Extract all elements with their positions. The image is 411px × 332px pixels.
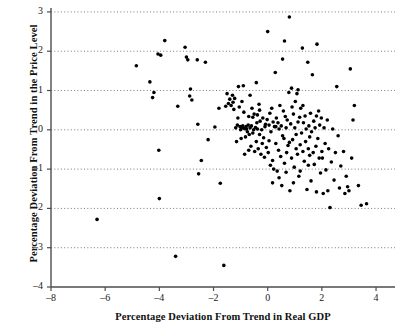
data-point: [292, 181, 296, 185]
data-point: [312, 119, 316, 123]
data-point: [309, 112, 313, 116]
data-point: [301, 104, 305, 108]
data-point: [251, 131, 255, 135]
data-point: [288, 141, 292, 145]
data-point: [286, 144, 290, 148]
data-point: [291, 138, 295, 142]
data-point: [274, 125, 278, 129]
data-point: [250, 106, 254, 110]
data-point: [320, 150, 324, 154]
data-point: [257, 102, 261, 106]
data-point: [307, 147, 311, 151]
data-point: [247, 148, 251, 152]
data-point: [224, 104, 228, 108]
data-point: [321, 156, 325, 160]
data-point: [309, 179, 313, 183]
x-tick-label: –4: [147, 292, 171, 303]
data-point: [158, 197, 162, 201]
data-point: [307, 163, 311, 167]
data-point: [163, 39, 167, 43]
data-point: [312, 163, 316, 167]
data-point: [260, 128, 264, 132]
data-point: [196, 123, 200, 127]
data-point: [317, 109, 321, 113]
data-point: [218, 181, 222, 185]
data-point: [270, 106, 274, 110]
data-point: [190, 98, 194, 102]
data-point: [283, 115, 287, 119]
data-point: [298, 169, 302, 173]
data-point: [247, 133, 251, 137]
data-point: [260, 142, 264, 146]
data-point: [256, 113, 260, 117]
data-point: [284, 170, 288, 174]
data-point: [365, 202, 369, 206]
data-point: [249, 145, 253, 149]
data-point: [335, 85, 339, 89]
data-point: [272, 167, 276, 171]
data-point: [285, 118, 289, 122]
data-point: [359, 203, 363, 207]
data-point: [186, 58, 190, 62]
data-point: [339, 164, 343, 168]
data-point: [285, 151, 289, 155]
data-point: [296, 152, 300, 156]
data-point: [311, 151, 315, 155]
data-point: [195, 58, 199, 62]
data-point: [239, 137, 243, 141]
data-point: [281, 57, 285, 61]
data-point: [242, 84, 246, 88]
data-point: [262, 136, 266, 140]
data-point: [261, 116, 265, 120]
data-point: [157, 148, 161, 152]
data-point: [159, 53, 163, 57]
data-point: [251, 115, 255, 119]
data-point: [266, 30, 270, 34]
data-point: [258, 133, 262, 137]
data-point: [315, 114, 319, 118]
data-point: [231, 93, 235, 97]
data-point: [301, 46, 305, 50]
data-point: [343, 192, 347, 196]
data-point: [176, 104, 180, 108]
data-point: [269, 130, 273, 134]
data-point: [297, 174, 301, 178]
data-point: [326, 189, 330, 193]
data-point: [284, 126, 288, 130]
plot-area: [51, 8, 395, 287]
y-axis-label: Percentage Deviation From Trend in the P…: [28, 0, 39, 289]
data-point: [265, 118, 269, 122]
data-point: [321, 192, 325, 196]
data-point: [276, 121, 280, 125]
data-point: [228, 97, 232, 101]
data-point: [267, 123, 271, 127]
data-point: [317, 156, 321, 160]
data-point: [304, 140, 308, 144]
data-point: [256, 127, 260, 131]
data-point: [197, 172, 201, 176]
data-point: [338, 186, 342, 190]
data-point: [327, 147, 331, 151]
data-point: [273, 71, 277, 75]
data-point: [290, 105, 294, 109]
data-point: [342, 150, 346, 154]
data-point: [325, 118, 329, 122]
data-point: [233, 97, 237, 101]
data-point: [294, 100, 298, 104]
data-point: [229, 104, 233, 108]
data-point: [288, 15, 292, 19]
data-point: [296, 88, 300, 92]
data-point: [263, 156, 267, 160]
data-point: [282, 109, 286, 113]
x-tick-label: 2: [310, 292, 334, 303]
data-point: [259, 152, 263, 156]
data-point: [277, 176, 281, 180]
data-point: [302, 121, 306, 125]
data-point: [331, 127, 335, 131]
data-point: [148, 80, 152, 84]
x-tick-label: –8: [39, 292, 63, 303]
data-point: [255, 121, 259, 125]
data-point: [248, 93, 252, 97]
data-point: [287, 91, 291, 95]
data-point: [271, 181, 275, 185]
